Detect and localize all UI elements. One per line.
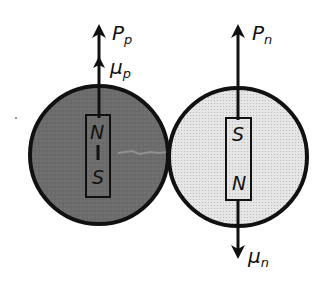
nucleon-diagram: N S Pp μp S N Pn μn: [0, 0, 325, 287]
neutron-magnet-south: S: [232, 123, 244, 145]
proton-magnet-north: N: [90, 121, 104, 143]
proton-magnet-south: S: [92, 166, 104, 188]
neutron: S N Pn μn: [169, 21, 307, 270]
speck: [15, 117, 17, 119]
proton: N S Pp μp: [30, 21, 168, 224]
proton-moment-label: μp: [109, 55, 131, 81]
neutron-spin-label: Pn: [252, 21, 272, 47]
proton-spin-label: Pp: [112, 21, 132, 47]
neutron-magnet-north: N: [232, 172, 246, 194]
neutron-moment-label: μn: [247, 244, 269, 270]
